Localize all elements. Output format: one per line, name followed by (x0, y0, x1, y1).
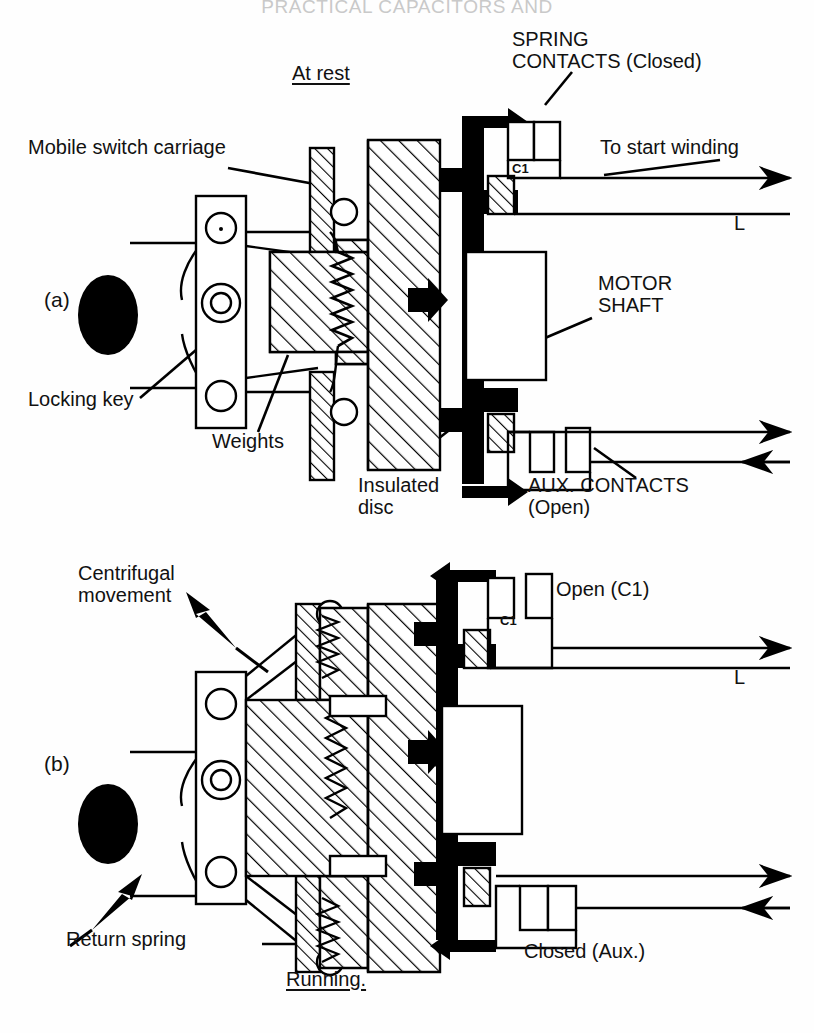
aux-contacts-callout: AUX. CONTACTS (Open) (528, 474, 689, 519)
line-terminal-label-b: L (734, 666, 745, 688)
panel-b-state-label: Running. (286, 968, 366, 990)
insulated-disc-callout: Insulated disc (358, 474, 439, 519)
panel-b-drawing (70, 562, 790, 975)
motor-shaft-callout: MOTOR SHAFT (598, 272, 672, 317)
open-c1-callout: Open (C1) (556, 578, 649, 600)
closed-aux-callout: Closed (Aux.) (524, 940, 645, 962)
contact-c1-label-b: C1 (500, 614, 517, 629)
panel-a-state-label: At rest (292, 62, 350, 84)
panel-a-index-label: (a) (44, 288, 70, 312)
panel-b-index-label: (b) (44, 752, 70, 776)
centrifugal-movement-callout: Centrifugal movement (78, 562, 175, 607)
mobile-switch-carriage-callout: Mobile switch carriage (28, 136, 226, 158)
figure-canvas: PRACTICAL CAPACITORS AND (0, 0, 814, 1033)
line-terminal-label-a: L (734, 212, 745, 234)
spring-contacts-callout: SPRING CONTACTS (Closed) (512, 28, 702, 73)
contact-c1-label-a: C1 (512, 162, 529, 177)
to-start-winding-callout: To start winding (600, 136, 739, 158)
weights-callout: Weights (212, 430, 284, 452)
locking-key-callout: Locking key (28, 388, 134, 410)
return-spring-callout: Return spring (66, 928, 186, 950)
